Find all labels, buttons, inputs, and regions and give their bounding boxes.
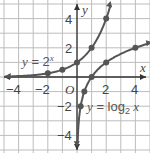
log-curve-point: [103, 59, 109, 65]
y-tick-4: 4: [65, 12, 72, 27]
y-tick-neg4: −4: [57, 128, 72, 143]
x-tick-neg2: −2: [35, 82, 50, 97]
log-curve-point: [89, 74, 95, 80]
labels: −4 −2 2 4 4 2 −2 −4 O x y y = 2x y = log…: [6, 2, 146, 143]
exp-curve-point: [103, 16, 109, 22]
y-tick-2: 2: [65, 41, 72, 56]
exp-curve-point: [45, 70, 51, 76]
exp-curve-point: [74, 59, 80, 65]
x-tick-neg4: −4: [6, 82, 21, 97]
log-curve-point: [78, 103, 84, 109]
x-tick-4: 4: [131, 82, 138, 97]
x-axis-label: x: [139, 60, 146, 75]
log-curve-arrow-right-icon: [146, 40, 150, 46]
log-curve-point: [81, 89, 87, 95]
log-curve-point: [132, 45, 138, 51]
label-log-curve: y = log2 x: [85, 99, 139, 116]
origin-label: O: [65, 82, 75, 97]
y-tick-neg2: −2: [57, 99, 72, 114]
axes: [4, 4, 146, 150]
exp-curve-point: [89, 45, 95, 51]
label-exp-curve: y = 2x: [20, 53, 54, 69]
y-axis-arrow-up-icon: [74, 4, 80, 10]
exp-curve: [5, 5, 111, 76]
graph: −4 −2 2 4 4 2 −2 −4 O x y y = 2x y = log…: [0, 0, 150, 153]
y-axis-label: y: [80, 2, 88, 17]
x-tick-2: 2: [102, 82, 109, 97]
exp-curve-point: [59, 67, 65, 73]
